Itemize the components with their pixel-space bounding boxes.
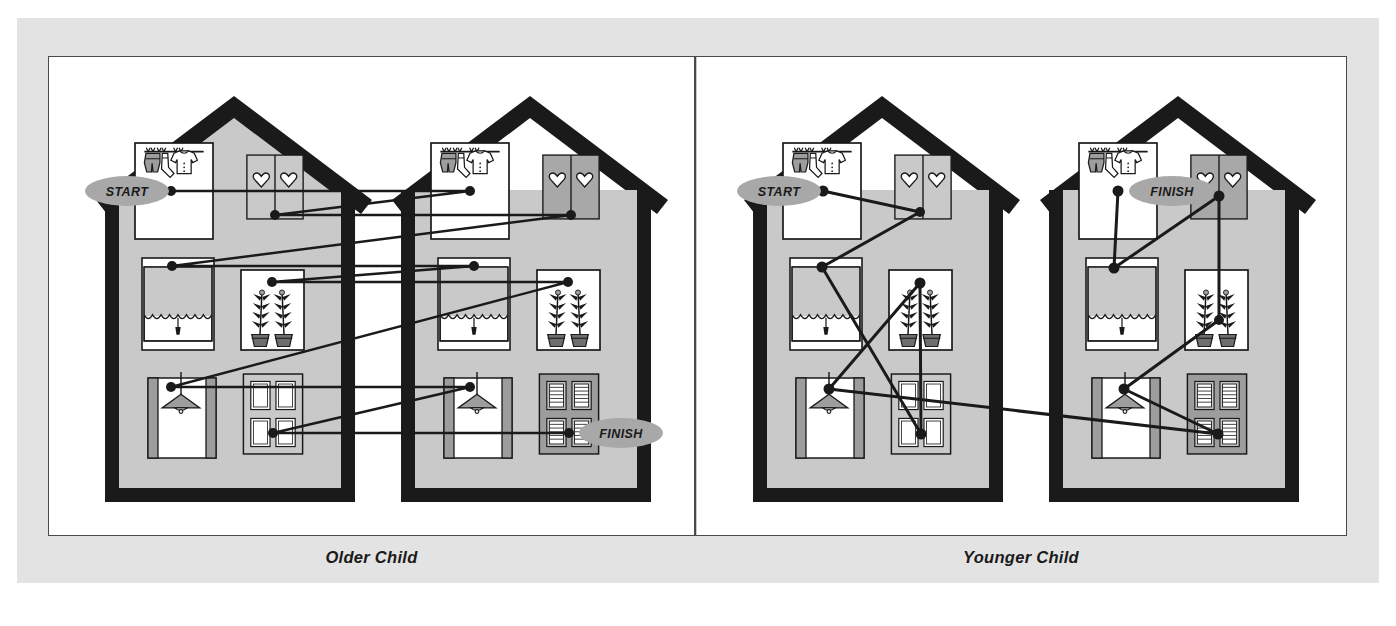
- panel-younger-child: [695, 56, 1347, 536]
- panel-older-child: [48, 56, 695, 536]
- figure-root: Older Child Younger Child: [0, 0, 1396, 626]
- caption-younger-child: Younger Child: [695, 548, 1347, 567]
- caption-older-child: Older Child: [48, 548, 695, 567]
